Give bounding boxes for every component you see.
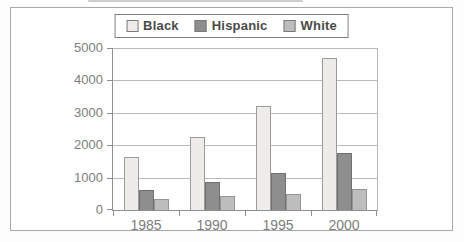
bar-black-1985 — [124, 157, 139, 210]
bar-group-1990 — [179, 48, 245, 210]
y-tick-label: 1000 — [59, 171, 103, 185]
bar-white-1990 — [220, 196, 235, 210]
x-tick-mark — [376, 210, 377, 216]
bar-white-2000 — [352, 189, 367, 210]
y-tick-label: 4000 — [59, 73, 103, 87]
legend-label: White — [301, 18, 337, 33]
x-tick-label-1990: 1990 — [179, 217, 245, 233]
x-tick-mark — [113, 210, 114, 216]
bar-black-2000 — [322, 58, 337, 210]
legend-item-hispanic: Hispanic — [195, 18, 268, 33]
x-tick-label-1985: 1985 — [113, 217, 179, 233]
plot-area: 0100020003000400050001985199019952000 — [112, 48, 378, 211]
legend-swatch-hispanic — [195, 20, 207, 32]
x-tick-mark — [245, 210, 246, 216]
x-tick-label-2000: 2000 — [311, 217, 377, 233]
bar-hispanic-1985 — [139, 190, 154, 210]
x-tick-label-1995: 1995 — [245, 217, 311, 233]
bar-white-1995 — [286, 194, 301, 210]
legend-label: Black — [143, 18, 179, 33]
bar-white-1985 — [154, 199, 169, 210]
legend-item-white: White — [284, 18, 337, 33]
y-tick-label: 5000 — [59, 41, 103, 55]
scan-artifact — [88, 0, 303, 2]
bar-black-1995 — [256, 106, 271, 210]
legend-swatch-white — [284, 20, 296, 32]
bar-group-2000 — [311, 48, 377, 210]
bar-hispanic-2000 — [337, 153, 352, 210]
bar-hispanic-1995 — [271, 173, 286, 210]
bar-hispanic-1990 — [205, 182, 220, 210]
x-tick-mark — [179, 210, 180, 216]
legend-swatch-black — [126, 20, 138, 32]
bar-black-1990 — [190, 137, 205, 210]
y-tick-label: 2000 — [59, 138, 103, 152]
y-tick-label: 3000 — [59, 106, 103, 120]
x-tick-mark — [311, 210, 312, 216]
chart-figure: BlackHispanicWhite 010002000300040005000… — [10, 7, 453, 231]
page: { "figure": { "background": "#ffffff", "… — [0, 0, 464, 242]
legend-item-black: Black — [126, 18, 179, 33]
chart-legend: BlackHispanicWhite — [114, 14, 349, 38]
bar-group-1985 — [113, 48, 179, 210]
bar-group-1995 — [245, 48, 311, 210]
y-tick-label: 0 — [59, 203, 103, 217]
legend-label: Hispanic — [212, 18, 268, 33]
